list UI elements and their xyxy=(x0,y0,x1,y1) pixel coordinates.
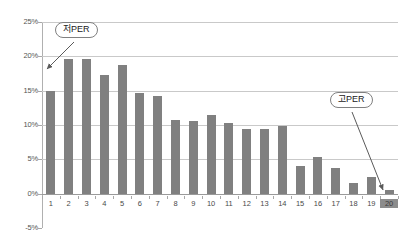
x-axis-tick-label: 20 xyxy=(380,199,398,208)
bar xyxy=(46,91,55,194)
bar-chart: 25%20%15%10%5%0%-5% 12345678910111213141… xyxy=(0,0,410,251)
bar xyxy=(260,129,269,194)
y-axis-tick-label: 25% xyxy=(2,17,38,26)
x-axis-tick-label: 3 xyxy=(78,199,96,208)
bar xyxy=(118,65,127,194)
y-axis-tick-label: 20% xyxy=(2,51,38,60)
bar xyxy=(171,120,180,194)
bar xyxy=(153,96,162,194)
bar xyxy=(64,59,73,194)
x-axis-tick-label: 17 xyxy=(327,199,345,208)
x-axis-tick-label: 9 xyxy=(184,199,202,208)
bar xyxy=(313,157,322,193)
x-axis-tick-label: 10 xyxy=(202,199,220,208)
y-axis-tick-label: 5% xyxy=(2,154,38,163)
x-axis-tick-label: 2 xyxy=(60,199,78,208)
bar xyxy=(296,166,305,194)
bar xyxy=(367,177,376,194)
x-axis-tick-label: 19 xyxy=(362,199,380,208)
annotation-low-per: 저PER xyxy=(55,22,98,38)
y-axis-tick-label: 0% xyxy=(2,189,38,198)
bar xyxy=(278,126,287,193)
y-axis-tick-label: 15% xyxy=(2,86,38,95)
annotation-high-per: 고PER xyxy=(330,92,373,108)
y-axis-tick-label: 10% xyxy=(2,120,38,129)
x-axis-tick-label: 11 xyxy=(220,199,238,208)
x-axis-tick-label: 7 xyxy=(149,199,167,208)
x-axis-tick-label: 15 xyxy=(291,199,309,208)
bar xyxy=(242,129,251,194)
x-axis-tick-label: 18 xyxy=(345,199,363,208)
x-axis-tick-label: 5 xyxy=(113,199,131,208)
x-axis-tick-label: 8 xyxy=(167,199,185,208)
x-axis-tick-mark xyxy=(398,196,399,199)
bar xyxy=(82,59,91,194)
y-axis-tick-mark xyxy=(38,228,42,229)
x-axis-tick-label: 16 xyxy=(309,199,327,208)
x-axis-tick-label: 12 xyxy=(238,199,256,208)
x-axis-tick-label: 4 xyxy=(95,199,113,208)
bar xyxy=(331,168,340,194)
bar xyxy=(100,75,109,194)
bar xyxy=(349,183,358,193)
bar xyxy=(207,115,216,194)
bar xyxy=(135,93,144,194)
x-axis: 1234567891011121314151617181920 xyxy=(42,196,398,212)
bar xyxy=(224,123,233,194)
x-axis-tick-label: 14 xyxy=(273,199,291,208)
bar xyxy=(189,121,198,194)
x-axis-tick-label: 13 xyxy=(256,199,274,208)
bar xyxy=(385,190,394,193)
x-axis-tick-label: 1 xyxy=(42,199,60,208)
y-axis-tick-label: -5% xyxy=(2,223,38,232)
x-axis-tick-label: 6 xyxy=(131,199,149,208)
